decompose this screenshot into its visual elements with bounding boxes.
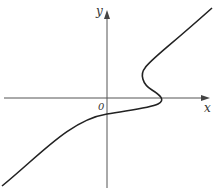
- y-axis-arrow-icon: [104, 10, 110, 19]
- diagram-canvas: y x 0: [0, 0, 216, 189]
- x-axis-label: x: [204, 101, 211, 115]
- y-axis-label: y: [95, 4, 103, 18]
- origin-label: 0: [98, 101, 105, 112]
